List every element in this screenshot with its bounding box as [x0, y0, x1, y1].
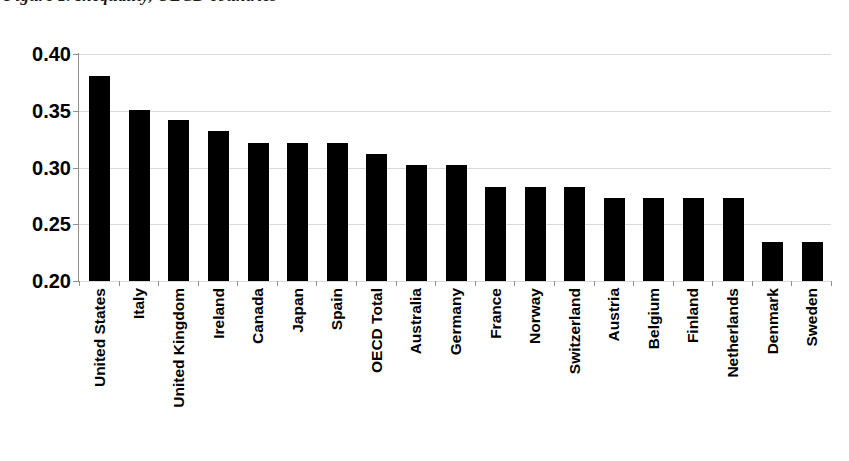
x-axis-tick	[791, 281, 792, 286]
y-axis-tick-label: 0.25	[9, 214, 71, 234]
x-axis-tick-label: OECD Total	[369, 288, 385, 373]
bar-chart: Figure 1. Inequality, OECD countries 0.4…	[0, 0, 849, 461]
x-axis-tick	[831, 281, 832, 286]
bar	[129, 110, 150, 281]
x-axis-label-slot: Italy	[128, 288, 150, 448]
y-axis-tick-label: 0.30	[9, 158, 71, 178]
x-axis-label-slot: United Kingdom	[168, 288, 190, 448]
x-axis-label-slot: Finland	[682, 288, 704, 448]
bar	[89, 76, 110, 281]
x-axis-label-slot: Denmark	[762, 288, 784, 448]
x-axis-tick	[712, 281, 713, 286]
y-axis-tick	[73, 224, 79, 225]
x-axis-tick-label: Finland	[686, 288, 702, 343]
x-axis-tick	[277, 281, 278, 286]
x-axis-tick	[673, 281, 674, 286]
bar	[683, 198, 704, 281]
x-axis-tick-label: Belgium	[646, 288, 662, 349]
x-axis-tick	[594, 281, 595, 286]
x-axis-tick	[119, 281, 120, 286]
bar	[248, 143, 269, 281]
bar	[604, 198, 625, 281]
x-axis-tick-label: Ireland	[211, 288, 227, 339]
bar	[525, 187, 546, 281]
x-axis-tick	[514, 281, 515, 286]
y-axis-tick	[73, 111, 79, 112]
bar	[327, 143, 348, 281]
plot-area	[79, 54, 831, 281]
bar	[406, 165, 427, 281]
y-axis-tick	[73, 54, 79, 55]
y-axis-tick	[73, 168, 79, 169]
y-axis-labels: 0.400.350.300.250.20	[0, 0, 71, 461]
bar	[643, 198, 664, 281]
y-axis-tick-label: 0.35	[9, 101, 71, 121]
bar	[287, 143, 308, 281]
gridline	[79, 54, 831, 55]
gridline	[79, 111, 831, 112]
x-axis-label-slot: Japan	[287, 288, 309, 448]
x-axis-tick-label: Switzerland	[567, 288, 583, 374]
x-axis-tick	[158, 281, 159, 286]
x-axis-tick-label: Norway	[527, 288, 543, 344]
x-axis-tick-label: Italy	[132, 288, 148, 319]
x-axis-tick	[396, 281, 397, 286]
x-axis-tick-label: Netherlands	[725, 288, 741, 378]
x-axis-tick	[554, 281, 555, 286]
x-axis-label-slot: Netherlands	[722, 288, 744, 448]
x-axis-label-slot: United States	[89, 288, 111, 448]
x-axis-tick	[237, 281, 238, 286]
x-axis-tick-label: United Kingdom	[171, 288, 187, 408]
figure-title-text: Figure 1. Inequality, OECD countries	[0, 0, 849, 6]
figure-title-clipped: Figure 1. Inequality, OECD countries	[0, 0, 849, 8]
bar	[168, 120, 189, 281]
x-axis-tick-label: France	[488, 288, 504, 339]
x-axis-label-slot: Belgium	[643, 288, 665, 448]
x-axis-tick-label: Denmark	[765, 288, 781, 354]
x-axis-label-slot: Ireland	[208, 288, 230, 448]
x-axis-tick-label: Germany	[448, 288, 464, 355]
gridline	[79, 281, 831, 282]
bar	[446, 165, 467, 281]
x-axis-tick	[198, 281, 199, 286]
bar	[208, 131, 229, 281]
x-axis-tick	[316, 281, 317, 286]
x-axis-label-slot: OECD Total	[366, 288, 388, 448]
x-axis-label-slot: Switzerland	[564, 288, 586, 448]
x-axis-tick	[356, 281, 357, 286]
bar	[762, 242, 783, 281]
bar	[802, 242, 823, 281]
x-axis-label-slot: Canada	[247, 288, 269, 448]
bar	[366, 154, 387, 281]
bar	[723, 198, 744, 281]
bar	[485, 187, 506, 281]
x-axis-label-slot: France	[485, 288, 507, 448]
x-axis-tick	[475, 281, 476, 286]
x-axis-tick-label: Canada	[250, 288, 266, 344]
x-axis-tick	[752, 281, 753, 286]
x-axis-label-slot: Spain	[326, 288, 348, 448]
x-axis-tick	[435, 281, 436, 286]
x-axis-tick	[79, 281, 80, 286]
x-axis-tick	[633, 281, 634, 286]
y-axis-tick-label: 0.20	[9, 271, 71, 291]
x-axis-tick-label: Spain	[330, 288, 346, 330]
x-axis-tick-label: Austria	[607, 288, 623, 341]
x-axis-tick-label: United States	[92, 288, 108, 387]
x-axis-tick-label: Japan	[290, 288, 306, 333]
x-axis-tick-label: Sweden	[804, 288, 820, 347]
x-axis-label-slot: Australia	[405, 288, 427, 448]
x-axis-label-slot: Austria	[603, 288, 625, 448]
bar	[564, 187, 585, 281]
x-axis-tick-label: Australia	[409, 288, 425, 354]
x-axis-label-slot: Sweden	[801, 288, 823, 448]
x-axis-label-slot: Germany	[445, 288, 467, 448]
x-axis-label-slot: Norway	[524, 288, 546, 448]
y-axis-tick-label: 0.40	[9, 44, 71, 64]
